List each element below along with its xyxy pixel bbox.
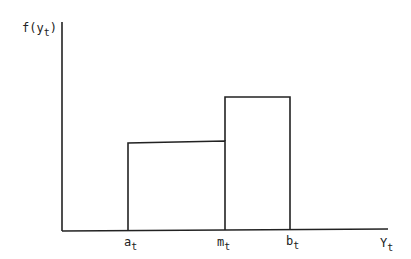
y-axis-label: f(yt)	[22, 22, 57, 38]
piecewise-uniform-density-diagram: f(yt) at mt bt Yt	[0, 0, 411, 259]
bin-right-m-to-b	[225, 97, 290, 230]
tick-label-a: at	[124, 236, 137, 252]
bin-left-a-to-m	[128, 141, 225, 231]
tick-label-b: bt	[286, 235, 299, 251]
tick-label-m: mt	[217, 236, 230, 252]
x-axis-label: Yt	[380, 237, 393, 253]
diagram-canvas	[0, 0, 411, 259]
